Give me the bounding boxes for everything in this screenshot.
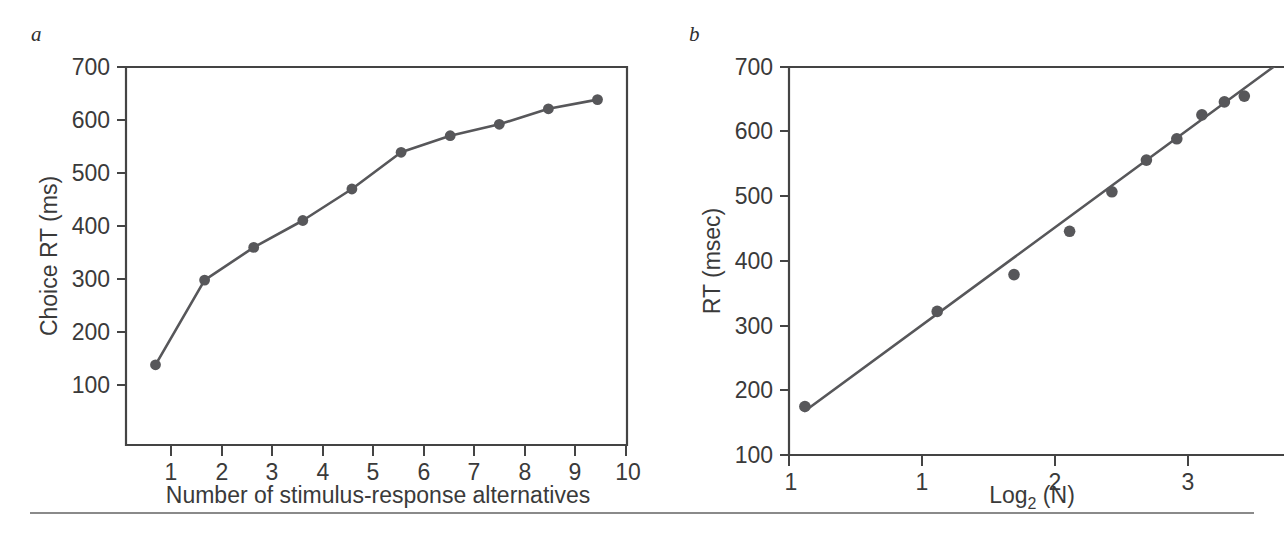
y-tick-label: 100: [735, 442, 773, 468]
x-axis-title-base: Log: [989, 482, 1027, 508]
panel-b-plot: 700 600 500 400 300 200 100 1 1 2 3: [642, 0, 1284, 534]
x-axis-title-tail: (N): [1036, 482, 1074, 508]
y-tick-label: 700: [735, 54, 773, 80]
x-tick-label: 1: [785, 469, 798, 495]
x-axis-ticks-a: [171, 445, 626, 456]
data-point: [1239, 90, 1251, 102]
y-tick-label: 100: [72, 372, 110, 398]
data-point: [297, 215, 308, 226]
figure-container: a 700 600 500 400 300 200: [0, 0, 1284, 534]
x-axis-title-subscript: 2: [1028, 495, 1037, 512]
data-point: [1106, 186, 1118, 198]
data-point: [494, 119, 505, 130]
footer-divider: [30, 512, 1254, 514]
regression-line-b: [805, 59, 1284, 411]
y-tick-label: 700: [72, 54, 110, 80]
data-point: [1064, 226, 1076, 238]
data-point: [396, 147, 407, 158]
data-point: [347, 184, 358, 195]
y-tick-label: 300: [735, 313, 773, 339]
y-axis-tick-labels-a: 700 600 500 400 300 200 100: [72, 54, 110, 398]
data-point: [150, 359, 161, 370]
data-point: [543, 103, 554, 114]
y-axis-title-a: Choice RT (ms): [36, 176, 62, 336]
series-line-a: [156, 100, 598, 365]
y-tick-label: 600: [735, 118, 773, 144]
panel-b: b 700 600 50: [642, 0, 1284, 534]
data-point: [1196, 109, 1208, 121]
x-tick-label: 10: [615, 459, 641, 485]
y-axis-title-b: RT (msec): [699, 208, 725, 315]
data-point: [1008, 269, 1020, 281]
panel-a-plot: 700 600 500 400 300 200 100: [0, 0, 642, 534]
x-axis-title-b: Log2 (N): [989, 482, 1075, 512]
data-point: [1171, 133, 1183, 145]
y-tick-label: 600: [72, 107, 110, 133]
x-tick-label: 1: [916, 469, 929, 495]
y-tick-label: 500: [72, 160, 110, 186]
y-axis-tick-labels-b: 700 600 500 400 300 200 100: [735, 54, 773, 468]
plot-frame-a: [126, 67, 627, 445]
y-tick-label: 200: [735, 377, 773, 403]
y-tick-label: 300: [72, 266, 110, 292]
y-axis-ticks-a: [117, 67, 126, 385]
y-axis-ticks-b: [780, 67, 789, 455]
y-tick-label: 500: [735, 183, 773, 209]
data-point: [1219, 96, 1231, 108]
data-point: [445, 130, 456, 141]
data-point: [199, 275, 210, 286]
x-tick-label: 3: [1182, 469, 1195, 495]
series-markers-a: [150, 94, 603, 370]
y-tick-label: 400: [72, 213, 110, 239]
y-tick-label: 400: [735, 248, 773, 274]
x-axis-ticks-b: [789, 455, 1188, 466]
data-point: [248, 242, 259, 253]
data-point: [1141, 154, 1153, 166]
y-tick-label: 200: [72, 319, 110, 345]
data-point: [592, 94, 603, 105]
panel-a: a 700 600 500 400 300 200: [0, 0, 642, 534]
x-axis-title-a: Number of stimulus-response alternatives: [166, 482, 590, 508]
data-point: [931, 306, 943, 318]
data-point: [799, 401, 811, 413]
plot-frame-b: [789, 67, 1284, 455]
